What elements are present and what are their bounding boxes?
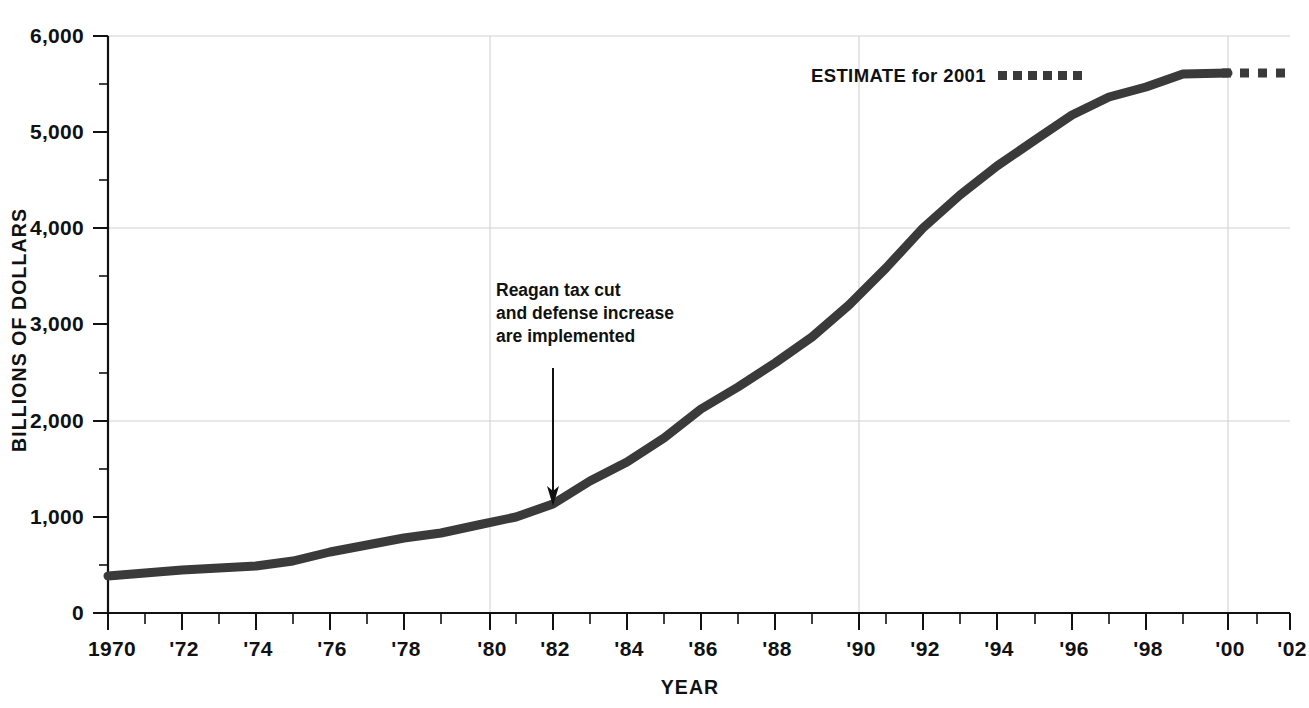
xtick-label-1978: '78 — [391, 637, 420, 660]
axes — [108, 36, 1290, 613]
annotation-line-3: are implemented — [496, 326, 635, 346]
annotation-arrow — [547, 368, 559, 506]
chart-figure: 0 1,000 2,000 3,000 4,000 5,000 6,000 BI… — [0, 0, 1309, 708]
xtick-label-1974: '74 — [243, 637, 272, 660]
data-line-federal-debt — [108, 73, 1228, 576]
annotation-line-2: and defense increase — [496, 303, 674, 323]
xtick-label-1970: 1970 — [88, 637, 136, 660]
y-axis-ticks — [93, 36, 108, 613]
xtick-label-1998: '98 — [1133, 637, 1162, 660]
xtick-label-1976: '76 — [317, 637, 346, 660]
ytick-label-2000: 2,000 — [30, 409, 84, 432]
ytick-label-4000: 4,000 — [30, 216, 84, 239]
xtick-label-1982: '82 — [540, 637, 569, 660]
xtick-label-1992: '92 — [910, 637, 939, 660]
x-axis-major-ticks — [108, 613, 1290, 630]
xtick-label-1990: '90 — [846, 637, 875, 660]
reagan-annotation: Reagan tax cut and defense increase are … — [496, 280, 674, 506]
legend-swatch-dotted — [998, 71, 1082, 80]
xtick-label-1980: '80 — [477, 637, 506, 660]
xtick-label-1972: '72 — [169, 637, 198, 660]
xtick-label-1984: '84 — [614, 637, 643, 660]
xtick-label-1986: '86 — [688, 637, 717, 660]
line-chart-canvas: 0 1,000 2,000 3,000 4,000 5,000 6,000 BI… — [0, 0, 1309, 708]
ytick-label-5000: 5,000 — [30, 120, 84, 143]
ytick-label-1000: 1,000 — [30, 505, 84, 528]
legend: ESTIMATE for 2001 — [811, 65, 1082, 86]
ytick-label-6000: 6,000 — [30, 24, 84, 47]
x-axis-tick-labels: 1970 '72 '74 '76 '78 '80 '82 '84 '86 '88… — [88, 637, 1307, 660]
vertical-gridlines — [490, 36, 1228, 613]
y-axis-tick-labels: 0 1,000 2,000 3,000 4,000 5,000 6,000 — [30, 24, 84, 624]
xtick-label-2000: '00 — [1215, 637, 1244, 660]
legend-label-estimate: ESTIMATE for 2001 — [811, 65, 986, 86]
ytick-label-0: 0 — [72, 601, 84, 624]
xtick-label-1994: '94 — [984, 637, 1013, 660]
x-axis-title: YEAR — [661, 676, 720, 698]
annotation-line-1: Reagan tax cut — [496, 280, 621, 300]
xtick-label-1988: '88 — [762, 637, 791, 660]
y-axis-title: BILLIONS OF DOLLARS — [8, 208, 30, 452]
cropped-title-strip — [0, 0, 1309, 10]
ytick-label-3000: 3,000 — [30, 312, 84, 335]
xtick-label-2002: '02 — [1277, 637, 1306, 660]
xtick-label-1996: '96 — [1059, 637, 1088, 660]
